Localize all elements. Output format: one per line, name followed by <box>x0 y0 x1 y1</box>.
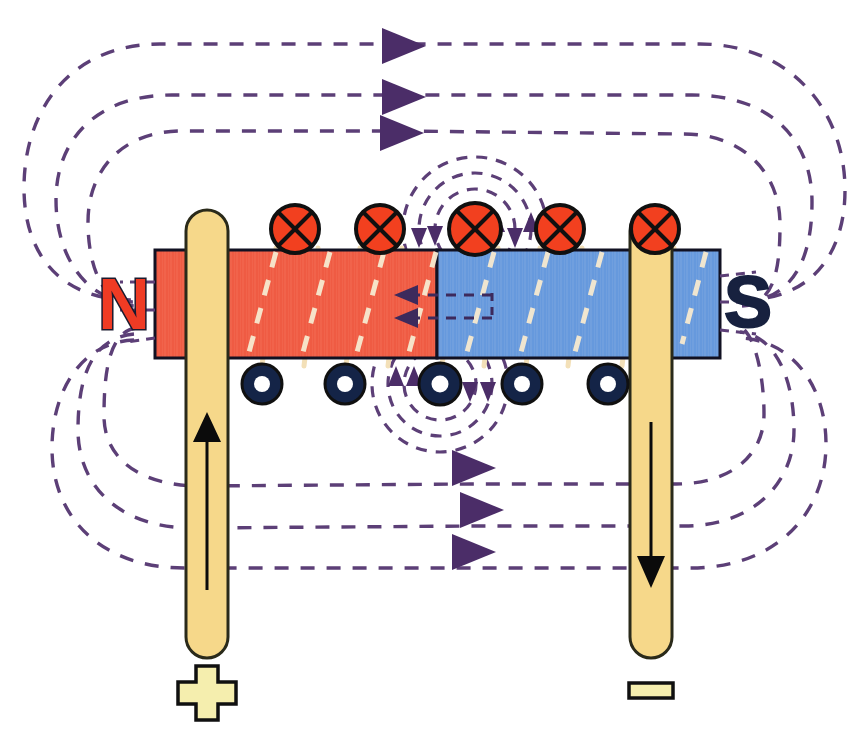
out-of-page-marker <box>502 364 542 404</box>
current-out-of-page-markers <box>242 363 628 405</box>
into-page-marker-highlighted <box>449 203 501 255</box>
circ-top-arrow-l2 <box>411 228 427 248</box>
into-page-marker <box>631 205 679 253</box>
out-of-page-marker <box>588 364 628 404</box>
minus-icon <box>629 683 673 698</box>
circ-bot-arrow-l1 <box>388 366 404 386</box>
field-arrow-top-2 <box>382 79 426 115</box>
negative-terminal <box>629 683 673 698</box>
into-page-marker <box>356 205 404 253</box>
field-arrowheads-top <box>380 28 426 151</box>
circ-top-arrow-l1 <box>427 226 443 246</box>
positive-terminal <box>178 666 236 720</box>
out-of-page-marker <box>242 364 282 404</box>
left-lead-positive <box>186 210 228 658</box>
into-page-marker <box>536 205 584 253</box>
out-of-page-marker <box>325 364 365 404</box>
right-lead-negative <box>630 210 672 658</box>
plus-icon <box>178 666 236 720</box>
field-arrow-bottom-2 <box>460 492 504 528</box>
electromagnet-diagram <box>0 0 860 752</box>
field-arrow-bottom-3 <box>452 534 496 570</box>
field-arrowheads-bottom <box>452 450 504 570</box>
field-arrow-top-3 <box>380 115 424 151</box>
field-arrow-top-1 <box>382 28 426 64</box>
current-into-page-markers <box>271 203 679 255</box>
circ-bot-arrow-r2 <box>480 382 496 402</box>
field-arrow-bottom-1 <box>452 450 496 486</box>
pole-label-south: S <box>724 266 771 338</box>
diagram-canvas: N S <box>0 0 860 752</box>
into-page-marker <box>271 205 319 253</box>
out-of-page-marker-highlighted <box>419 363 461 405</box>
circ-top-arrow-r1 <box>507 228 523 248</box>
pole-label-north: N <box>98 268 149 340</box>
